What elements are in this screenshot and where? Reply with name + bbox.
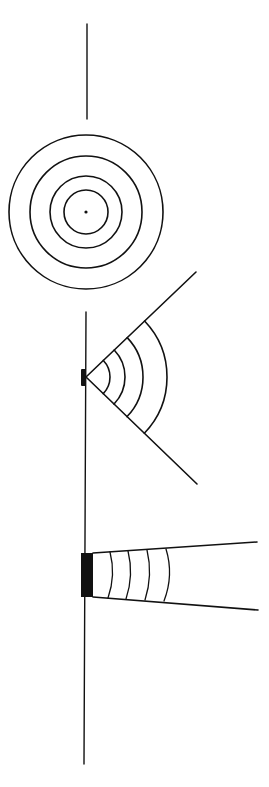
beam-wavefront <box>145 550 150 600</box>
wavefront-arc <box>103 360 110 393</box>
beam-edge-bottom <box>93 597 258 610</box>
beam-edge-top <box>93 542 257 553</box>
wavefront-arc <box>127 338 143 417</box>
wide-dispersion-figure <box>81 272 197 764</box>
diagram-canvas <box>0 0 269 787</box>
point-source-dot <box>84 210 87 213</box>
radiation-pattern-diagram <box>0 0 269 787</box>
large-source-block <box>81 553 93 597</box>
wavefront-arc <box>144 321 167 433</box>
beam-wavefront <box>108 552 113 598</box>
wavefront-arc <box>114 350 125 404</box>
small-source-block <box>81 369 86 386</box>
omnidirectional-source-figure <box>9 24 163 289</box>
narrow-beam-figure <box>81 542 258 610</box>
beam-wavefront <box>126 551 131 599</box>
beam-wavefront <box>164 549 170 601</box>
